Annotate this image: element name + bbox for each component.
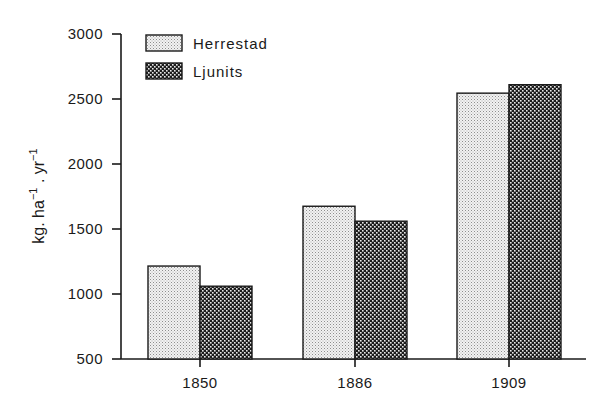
y-axis: 50010001500200025003000 — [68, 25, 121, 367]
y-tick-label: 1000 — [68, 285, 103, 302]
bar-ljunits-1909 — [509, 85, 561, 359]
y-tick-label: 3000 — [68, 25, 103, 42]
legend-label: Ljunits — [193, 63, 243, 80]
y-tick-label: 2500 — [68, 90, 103, 107]
legend-swatch — [146, 35, 182, 51]
svg-text:kg. ha−1 . yr−1: kg. ha−1 . yr−1 — [27, 148, 47, 243]
legend-swatch — [146, 63, 182, 79]
legend-label: Herrestad — [193, 35, 268, 52]
y-axis-title: kg. ha−1 . yr−1 — [27, 148, 47, 243]
x-axis: 185018861909 — [121, 359, 586, 391]
bar-herrestad-1909 — [457, 93, 509, 359]
legend-item-ljunits: Ljunits — [146, 63, 243, 80]
bar-ljunits-1886 — [355, 221, 407, 359]
x-tick-label: 1886 — [337, 374, 372, 391]
legend-item-herrestad: Herrestad — [146, 35, 268, 52]
bar-herrestad-1886 — [303, 206, 355, 359]
bar-chart: 50010001500200025003000 185018861909 Her… — [0, 0, 602, 417]
x-tick-label: 1850 — [182, 374, 217, 391]
bar-ljunits-1850 — [200, 286, 252, 359]
y-tick-label: 500 — [76, 350, 103, 367]
bar-herrestad-1850 — [148, 266, 200, 359]
y-tick-label: 2000 — [68, 155, 103, 172]
legend: HerrestadLjunits — [146, 35, 268, 80]
y-tick-label: 1500 — [68, 220, 103, 237]
x-tick-label: 1909 — [491, 374, 526, 391]
bars — [148, 85, 561, 359]
